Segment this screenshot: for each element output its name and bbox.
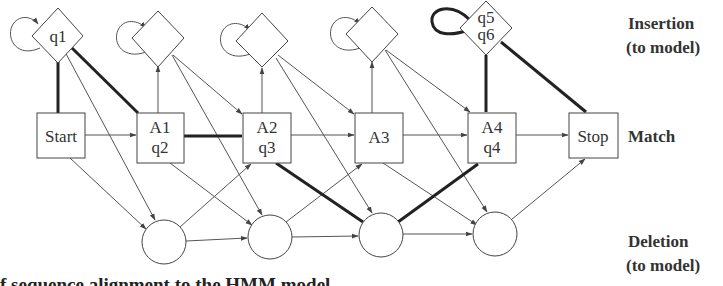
deletion-state-1	[142, 220, 186, 264]
match-2-label-2: q3	[259, 138, 276, 157]
deletion-sublabel: (to model)	[626, 256, 700, 276]
match-1-label-1: A1	[150, 118, 171, 137]
match-3-label: A3	[369, 128, 390, 147]
figure-caption: f sequence alignment to the HMM model	[0, 272, 330, 286]
deletion-state-4	[473, 212, 517, 256]
insertion-state-4-label-2: q6	[478, 25, 495, 44]
insertion-state-3	[346, 7, 398, 62]
deletion-state-3	[359, 213, 403, 257]
insertion-state-0-label: q1	[50, 27, 67, 46]
match-4-label-2: q4	[484, 138, 502, 157]
insertion-sublabel: (to model)	[626, 38, 700, 58]
insertion-state-1	[132, 11, 184, 67]
match-states	[37, 113, 618, 163]
match-1-label-2: q2	[152, 138, 169, 157]
match-4-label-1: A4	[482, 118, 503, 137]
deletion-state-2	[248, 215, 292, 259]
match-label: Match	[628, 127, 675, 147]
deletion-states	[142, 212, 517, 264]
stop-label: Stop	[577, 127, 608, 146]
deletion-label: Deletion	[628, 232, 688, 252]
insertion-label: Insertion	[628, 14, 694, 34]
profile-hmm-diagram: q1 q5 q6 Start A1 q2 A2 q3 A3 A4 q4 Stop	[0, 0, 723, 286]
match-2-label-1: A2	[257, 118, 278, 137]
start-label: Start	[45, 127, 77, 146]
insertion-state-2	[236, 13, 288, 67]
